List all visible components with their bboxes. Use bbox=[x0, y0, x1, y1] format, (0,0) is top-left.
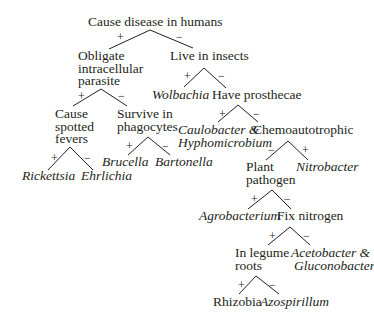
node-in-legume-roots: In legume roots bbox=[235, 247, 289, 272]
minus-sign: − bbox=[268, 144, 275, 156]
node-survive-in-phagocytes: Survive in phagocytes bbox=[117, 108, 178, 133]
minus-sign: − bbox=[303, 230, 310, 242]
minus-sign: − bbox=[176, 31, 183, 43]
minus-sign: − bbox=[218, 70, 225, 82]
plus-sign: + bbox=[51, 152, 58, 164]
dichotomous-key-diagram: Cause disease in humans Obligate intrace… bbox=[0, 0, 374, 327]
node-plant-pathogen: Plant pathogen bbox=[246, 161, 296, 186]
node-cause-spotted-fevers: Cause spotted fevers bbox=[55, 108, 94, 146]
plus-sign: + bbox=[269, 230, 276, 242]
leaf-agrobacterium: Agrobacterium bbox=[199, 210, 280, 223]
leaf-nitrobacter: Nitrobacter bbox=[296, 161, 359, 174]
plus-sign: + bbox=[238, 279, 245, 291]
leaf-rickettsia: Rickettsia bbox=[22, 170, 75, 183]
node-obligate-intracellular-parasite: Obligate intracellular parasite bbox=[78, 50, 143, 88]
node-have-prosthecae: Have prosthecae bbox=[212, 89, 302, 102]
minus-sign: − bbox=[269, 279, 276, 291]
minus-sign: − bbox=[284, 193, 291, 205]
node-fix-nitrogen: Fix nitrogen bbox=[277, 210, 343, 223]
plus-sign: + bbox=[219, 108, 226, 120]
leaf-azospirillum: Azospirillum bbox=[260, 296, 329, 309]
minus-sign: − bbox=[253, 108, 260, 120]
minus-sign: − bbox=[118, 90, 125, 102]
node-cause-disease-in-humans: Cause disease in humans bbox=[88, 16, 223, 29]
plus-sign: + bbox=[126, 140, 133, 152]
leaf-acetobacter-gluconobacter: Acetobacter & Gluconobacter bbox=[291, 247, 374, 272]
minus-sign: − bbox=[84, 152, 91, 164]
plus-sign: + bbox=[184, 70, 191, 82]
plus-sign: + bbox=[78, 90, 85, 102]
leaf-wolbachia: Wolbachia bbox=[152, 89, 209, 102]
node-chemoautotrophic: Chemoautotrophic bbox=[253, 124, 353, 137]
leaf-ehrlichia: Ehrlichia bbox=[81, 170, 132, 183]
leaf-rhizobia: Rhizobia bbox=[213, 296, 262, 309]
plus-sign: + bbox=[302, 144, 309, 156]
leaf-bartonella: Bartonella bbox=[155, 156, 213, 169]
leaf-brucella: Brucella bbox=[102, 156, 149, 169]
node-live-in-insects: Live in insects bbox=[170, 50, 249, 63]
plus-sign: + bbox=[117, 31, 124, 43]
minus-sign: − bbox=[162, 140, 169, 152]
plus-sign: + bbox=[251, 193, 258, 205]
